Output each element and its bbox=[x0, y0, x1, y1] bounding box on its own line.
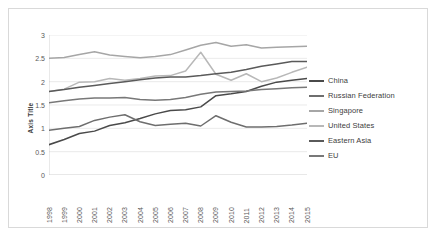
legend-swatch-icon bbox=[309, 110, 324, 112]
legend-item-singapore[interactable]: Singapore bbox=[309, 103, 421, 118]
x-tick-label: 2006 bbox=[167, 207, 174, 223]
series-line-russian-federation bbox=[49, 115, 307, 130]
legend-item-united-states[interactable]: United States bbox=[309, 118, 421, 133]
legend-swatch-icon bbox=[309, 80, 324, 82]
chart-container: Axis Title 00.511.522.53 199819992000200… bbox=[8, 8, 428, 228]
x-tick-label: 2009 bbox=[212, 207, 219, 223]
series-line-eastern-asia bbox=[49, 62, 307, 92]
chart-inner: Axis Title 00.511.522.53 199819992000200… bbox=[9, 9, 427, 227]
x-tick-label: 2000 bbox=[76, 207, 83, 223]
x-tick-label: 2012 bbox=[258, 207, 265, 223]
plot-svg bbox=[49, 35, 307, 175]
plot-area bbox=[49, 35, 307, 175]
y-tick-label: 0 bbox=[27, 172, 45, 179]
x-tick-label: 1998 bbox=[46, 207, 53, 223]
y-axis-tick-labels: 00.511.522.53 bbox=[23, 9, 45, 227]
legend-item-eastern-asia[interactable]: Eastern Asia bbox=[309, 133, 421, 148]
x-tick-label: 2008 bbox=[197, 207, 204, 223]
series-line-eu bbox=[49, 87, 307, 102]
x-tick-label: 2005 bbox=[152, 207, 159, 223]
legend-item-label: Eastern Asia bbox=[328, 136, 371, 145]
y-tick-label: 0.5 bbox=[27, 148, 45, 155]
x-tick-label: 2004 bbox=[137, 207, 144, 223]
legend-swatch-icon bbox=[309, 155, 324, 157]
x-axis-tick-labels: 1998199920002001200220032004200520062007… bbox=[49, 175, 307, 223]
x-tick-label: 2007 bbox=[182, 207, 189, 223]
series-line-china bbox=[49, 78, 307, 144]
x-tick-label: 2010 bbox=[228, 207, 235, 223]
legend-item-china[interactable]: China bbox=[309, 73, 421, 88]
x-tick-label: 2011 bbox=[243, 208, 250, 223]
legend-item-russian-federation[interactable]: Russian Federation bbox=[309, 88, 421, 103]
legend-item-label: EU bbox=[328, 151, 339, 160]
legend-item-label: China bbox=[328, 76, 348, 85]
x-tick-label: 2002 bbox=[106, 207, 113, 223]
legend-item-label: Singapore bbox=[328, 106, 363, 115]
y-tick-label: 1 bbox=[27, 125, 45, 132]
x-tick-label: 2014 bbox=[288, 207, 295, 223]
x-tick-label: 2003 bbox=[121, 207, 128, 223]
chart-legend: ChinaRussian FederationSingaporeUnited S… bbox=[309, 73, 421, 163]
legend-swatch-icon bbox=[309, 125, 324, 127]
legend-item-eu[interactable]: EU bbox=[309, 148, 421, 163]
y-tick-label: 2.5 bbox=[27, 55, 45, 62]
x-tick-label: 2001 bbox=[91, 207, 98, 223]
x-tick-label: 1999 bbox=[61, 207, 68, 223]
legend-item-label: United States bbox=[328, 121, 374, 130]
series-line-singapore bbox=[49, 42, 307, 58]
y-tick-label: 1.5 bbox=[27, 102, 45, 109]
legend-item-label: Russian Federation bbox=[328, 91, 395, 100]
legend-swatch-icon bbox=[309, 140, 324, 142]
legend-swatch-icon bbox=[309, 95, 324, 97]
x-tick-label: 2013 bbox=[273, 207, 280, 223]
y-tick-label: 2 bbox=[27, 78, 45, 85]
x-tick-label: 2015 bbox=[304, 207, 311, 223]
y-tick-label: 3 bbox=[27, 32, 45, 39]
